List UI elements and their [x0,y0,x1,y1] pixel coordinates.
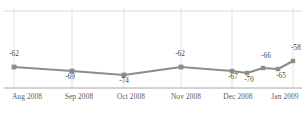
point-label: -66 [261,52,271,60]
x-axis-tick-label-sep: Sep 2008 [65,92,94,101]
line-chart: -62 -69 -74 -62 -67 -70 -66 -65 -58 Aug … [0,0,306,117]
x-axis-tick-label-aug: Aug 2008 [12,92,42,101]
point-label: -62 [9,50,19,58]
point-label: -70 [244,76,254,84]
chart-plot-area [0,0,306,117]
point-label: -69 [65,73,75,81]
point-label: -62 [175,50,185,58]
x-axis-tick-label-oct: Oct 2008 [117,92,145,101]
x-axis-tick-label-nov: Nov 2008 [171,92,201,101]
point-label: -65 [276,72,286,80]
point-label: -58 [291,44,301,52]
x-axis-tick-label-dec: Dec 2008 [223,92,252,101]
data-point-markers [12,59,296,78]
point-label: -67 [228,73,238,81]
x-axis-tick-label-jan: Jan 2009 [271,92,298,101]
data-series-line [14,61,293,75]
point-label: -74 [119,77,129,85]
